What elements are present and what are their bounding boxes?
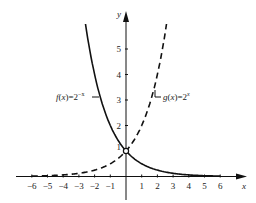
x-axis-arrow-icon [236, 174, 247, 180]
f-curve [86, 24, 221, 176]
axes: −6−5−4−3−2−11234562345 [16, 11, 247, 200]
x-tick-label: 4 [187, 181, 192, 191]
x-tick-label: 1 [139, 181, 144, 191]
x-tick-label: 6 [218, 181, 223, 191]
x-tick-label: 5 [202, 181, 207, 191]
chart-labels: xy1f(x)=2−xg(x)=2x [56, 9, 246, 191]
f-curve-label: f(x)=2−x [56, 91, 84, 102]
x-tick-label: −2 [90, 181, 100, 191]
x-tick-label: 2 [155, 181, 160, 191]
y-tick-label: 4 [117, 70, 122, 80]
x-tick-label: 3 [171, 181, 176, 191]
x-axis-label: x [241, 181, 246, 191]
y-tick-label: 2 [117, 121, 122, 131]
y-tick-label: 5 [117, 44, 122, 54]
x-tick-label: −6 [27, 181, 37, 191]
y-tick-label: 3 [117, 95, 122, 105]
x-tick-label: −5 [43, 181, 53, 191]
intercept-point [123, 148, 128, 153]
y-axis-arrow-icon [123, 11, 129, 22]
y-axis-label: y [116, 9, 121, 19]
g-curve-label: g(x)=2x [163, 91, 190, 102]
x-tick-label: −3 [74, 181, 84, 191]
x-tick-label: −4 [58, 181, 68, 191]
exponential-chart: −6−5−4−3−2−11234562345 xy1f(x)=2−xg(x)=2… [0, 0, 256, 203]
g-curve [32, 24, 167, 176]
x-tick-label: −1 [106, 181, 116, 191]
intercept-label: 1 [117, 142, 122, 152]
